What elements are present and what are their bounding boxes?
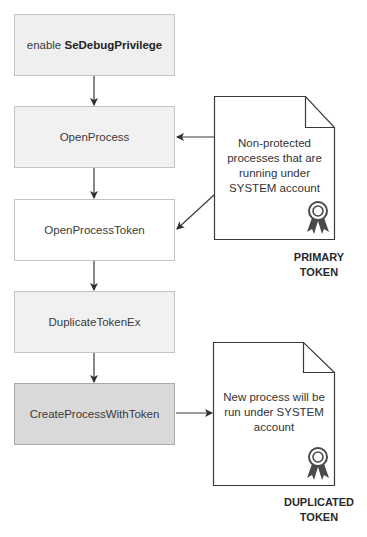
caption-line: TOKEN	[269, 510, 367, 525]
step-enable-sedebugprivilege: enable SeDebugPrivilege	[14, 14, 175, 76]
note-line: New process will be	[213, 390, 335, 405]
arrow-note1-to-openprocesstoken	[177, 195, 214, 229]
step-openprocesstoken: OpenProcessToken	[14, 199, 175, 261]
step-openprocess: OpenProcess	[14, 106, 175, 168]
note-line: processes that are	[214, 151, 335, 166]
step-createprocesswithtoken: CreateProcessWithToken	[14, 383, 175, 445]
caption-line: TOKEN	[274, 265, 364, 280]
caption-duplicated-token: DUPLICATED TOKEN	[269, 495, 367, 525]
note-line: account	[213, 420, 335, 435]
step-label: OpenProcessToken	[44, 224, 144, 236]
note-line: running under	[214, 166, 335, 181]
note-line: Non-protected	[214, 136, 335, 151]
step-label: OpenProcess	[60, 131, 130, 143]
note-line: run under SYSTEM	[213, 405, 335, 420]
step-label: DuplicateTokenEx	[48, 316, 140, 328]
step-prefix: enable	[27, 39, 65, 51]
caption-line: DUPLICATED	[269, 495, 367, 510]
note-line: SYSTEM account	[214, 181, 335, 196]
step-duplicatetokenex: DuplicateTokenEx	[14, 291, 175, 353]
caption-primary-token: PRIMARY TOKEN	[274, 250, 364, 280]
caption-line: PRIMARY	[274, 250, 364, 265]
step-label: SeDebugPrivilege	[64, 39, 162, 51]
note-duplicated-token-text: New process will be run under SYSTEM acc…	[213, 390, 335, 435]
note-primary-token-text: Non-protected processes that are running…	[214, 136, 335, 196]
step-label: CreateProcessWithToken	[30, 408, 160, 420]
